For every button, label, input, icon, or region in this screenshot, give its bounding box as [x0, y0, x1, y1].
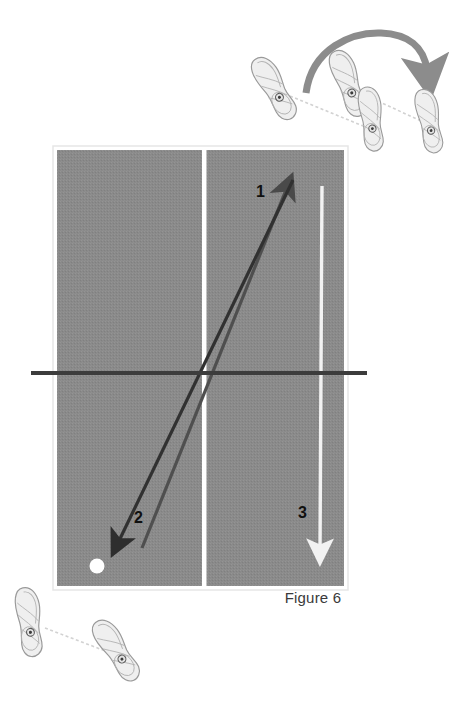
figure-caption: Figure 6 — [248, 589, 378, 606]
arrow-label-1: 1 — [256, 183, 265, 201]
ball — [90, 559, 105, 574]
foot-top-right — [410, 87, 451, 156]
arrow-label-2: 2 — [134, 509, 143, 527]
foot-bottom-left — [10, 585, 50, 658]
footwork-group-bottom — [10, 585, 148, 685]
arrow-label-3: 3 — [298, 504, 307, 522]
figure-container: 1 2 3 Figure 6 — [0, 0, 467, 712]
foot-top-left-rear — [244, 52, 305, 123]
figure-illustration — [0, 0, 467, 712]
foot-bottom-right — [85, 615, 148, 685]
arrow-3-white-path — [320, 186, 322, 552]
foot-top-mid-rear — [354, 85, 391, 153]
table-tennis-table — [53, 146, 348, 590]
footwork-group-top — [244, 33, 450, 155]
pivot-arc-arrow — [306, 33, 427, 93]
